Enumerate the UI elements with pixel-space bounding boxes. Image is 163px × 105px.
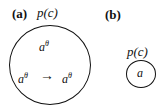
panel-a-set-circle (9, 25, 91, 105)
panel-a-left-element: aθ (18, 71, 28, 87)
panel-a-set-label: p(c) (37, 5, 58, 21)
panel-b-element: a (137, 66, 143, 81)
panel-b-label: (b) (105, 7, 121, 23)
panel-a-label: (a) (12, 6, 27, 22)
panel-a-top-element: aθ (39, 39, 49, 55)
panel-b-set-label: p(c) (127, 44, 148, 60)
arrow-right-icon: → (40, 68, 54, 84)
panel-a-right-element: aθ (62, 71, 72, 87)
